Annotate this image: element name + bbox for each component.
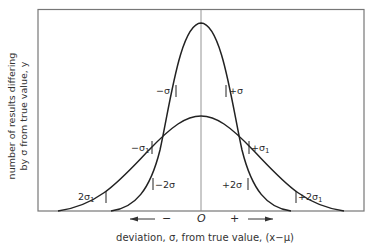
y-axis-label: number of results differing by σ from tr… <box>6 31 30 201</box>
label-2sigma1: 2σ1 <box>78 192 95 205</box>
x-center-label: O <box>197 214 206 224</box>
diagram-canvas <box>0 0 373 252</box>
label-minus-sigma: −σ <box>156 86 170 96</box>
x-minus-label: − <box>162 214 171 224</box>
label-plus-sigma: +σ <box>229 86 243 96</box>
label-minus-2sigma: −2σ <box>155 180 175 190</box>
y-axis-label-line2: by σ from true value, y <box>18 31 30 201</box>
label-plus-2sigma: +2σ <box>222 180 242 190</box>
left-arrow-head <box>130 217 138 222</box>
label-plus-sigma1: +σ1 <box>251 143 269 156</box>
x-plus-label: + <box>230 214 239 224</box>
x-axis-label: deviation, σ, from true value, (x−μ) <box>60 232 350 243</box>
label-plus-2sigma1: +2σ1 <box>298 192 323 205</box>
y-axis-label-line1: number of results differing <box>6 31 18 201</box>
label-minus-sigma1: −σ1 <box>131 143 149 156</box>
right-arrow-head <box>265 217 273 222</box>
